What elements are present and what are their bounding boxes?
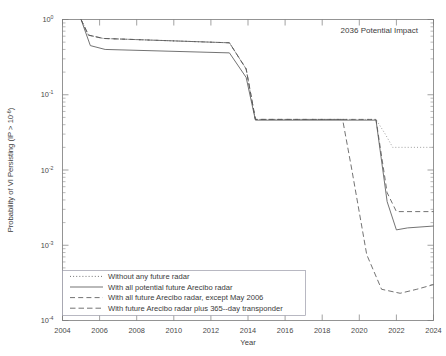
x-tick-label: 2006 — [91, 326, 107, 335]
data-series-group — [81, 20, 433, 294]
legend-label-2: With all future Arecibo radar, except Ma… — [108, 293, 263, 302]
y-axis-label-tail: ) — [6, 107, 15, 110]
x-tick-label: 2010 — [166, 326, 182, 335]
y-axis-label: Probability of VI Persisting (IP > 10-6) — [6, 107, 15, 232]
legend-label-3: With future Arecibo radar plus 365--day … — [108, 304, 283, 313]
y-axis-tick-labels: 10010-110-210-310-4 — [41, 14, 54, 325]
x-tick-label: 2020 — [351, 326, 367, 335]
x-tick-label: 2014 — [240, 326, 256, 335]
x-axis-tick-labels: 2004200620082010201220142016201820202022… — [54, 326, 441, 335]
x-tick-label: 2004 — [54, 326, 70, 335]
x-tick-label: 2008 — [128, 326, 144, 335]
x-tick-label: 2016 — [277, 326, 293, 335]
x-tick-label: 2024 — [425, 326, 441, 335]
data-series-line-2 — [81, 20, 433, 212]
y-tick-label: 100 — [42, 14, 53, 24]
data-series-line-1 — [81, 20, 433, 230]
x-tick-label: 2022 — [388, 326, 404, 335]
x-axis-label: Year — [240, 338, 256, 347]
y-tick-label: 10-2 — [41, 165, 54, 175]
chart-legend: Without any future radarWith all potenti… — [63, 271, 306, 316]
x-tick-label: 2012 — [203, 326, 219, 335]
legend-label-1: With all potential future Arecibo radar — [108, 283, 233, 292]
y-tick-label: 10-3 — [41, 240, 54, 250]
chart-figure: 10010-110-210-310-4 20042006200820102012… — [0, 0, 446, 356]
svg-text:Probability of VI Persisting (: Probability of VI Persisting (IP > 10-6) — [6, 107, 15, 232]
chart-annotation: 2036 Potential Impact — [341, 26, 419, 35]
y-tick-label: 10-4 — [41, 315, 54, 325]
y-axis-label-main: Probability of VI Persisting (IP > 10 — [6, 115, 15, 232]
y-tick-label: 10-1 — [41, 89, 54, 99]
x-tick-label: 2018 — [314, 326, 330, 335]
probability-line-chart: 10010-110-210-310-4 20042006200820102012… — [0, 0, 446, 356]
data-series-line-0 — [81, 20, 433, 148]
legend-label-0: Without any future radar — [108, 272, 190, 281]
